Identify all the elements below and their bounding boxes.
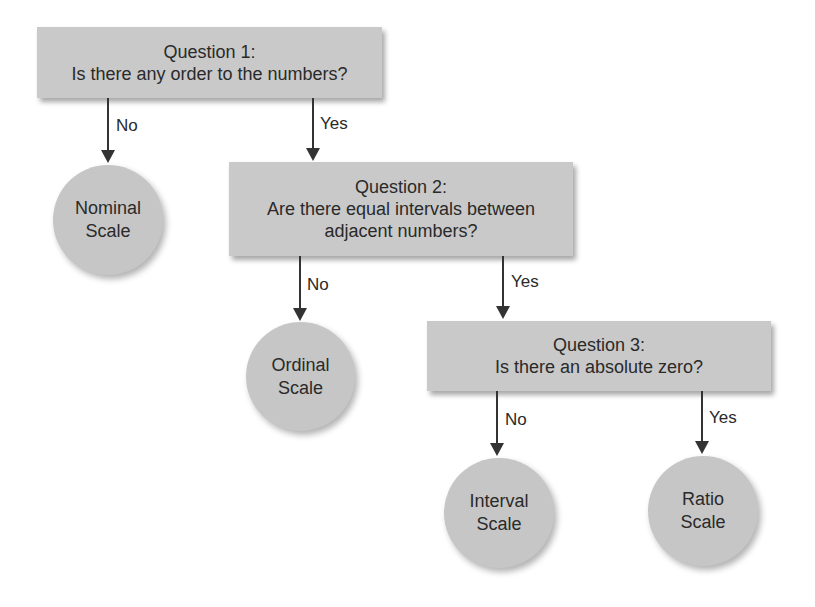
question-3-text: Is there an absolute zero? <box>495 356 703 378</box>
interval-scale-node: Interval Scale <box>444 458 554 568</box>
question-1-text: Is there any order to the numbers? <box>71 63 347 85</box>
nominal-line2: Scale <box>85 220 130 243</box>
edge-label-q1-yes: Yes <box>320 114 348 134</box>
ratio-line1: Ratio <box>682 488 724 511</box>
arrow-q1-yes-shaft <box>312 98 314 148</box>
arrow-q2-yes-head-icon <box>496 306 510 319</box>
arrow-q2-yes-shaft <box>502 256 504 306</box>
ordinal-scale-node: Ordinal Scale <box>246 322 355 431</box>
arrow-q1-no-head-icon <box>101 150 115 163</box>
question-3-box: Question 3: Is there an absolute zero? <box>427 321 771 391</box>
arrow-q1-yes-head-icon <box>306 148 320 161</box>
arrow-q3-yes-shaft <box>701 391 703 441</box>
question-1-title: Question 1: <box>163 41 255 63</box>
question-2-box: Question 2: Are there equal intervals be… <box>229 162 573 256</box>
edge-label-q2-no: No <box>307 275 329 295</box>
arrow-q3-yes-head-icon <box>695 441 709 454</box>
edge-label-q1-no: No <box>116 116 138 136</box>
ratio-scale-node: Ratio Scale <box>648 456 758 566</box>
interval-line2: Scale <box>476 513 521 536</box>
question-3-title: Question 3: <box>553 334 645 356</box>
question-2-text-line2: adjacent numbers? <box>324 220 477 242</box>
question-2-title: Question 2: <box>355 176 447 198</box>
ratio-line2: Scale <box>680 511 725 534</box>
ordinal-line2: Scale <box>278 377 323 400</box>
nominal-line1: Nominal <box>75 197 141 220</box>
ordinal-line1: Ordinal <box>271 354 329 377</box>
question-2-text-line1: Are there equal intervals between <box>267 198 535 220</box>
nominal-scale-node: Nominal Scale <box>53 165 163 275</box>
arrow-q3-no-head-icon <box>490 443 504 456</box>
arrow-q2-no-shaft <box>299 256 301 308</box>
edge-label-q2-yes: Yes <box>511 272 539 292</box>
edge-label-q3-no: No <box>505 410 527 430</box>
question-1-box: Question 1: Is there any order to the nu… <box>37 27 382 98</box>
edge-label-q3-yes: Yes <box>709 408 737 428</box>
arrow-q2-no-head-icon <box>293 308 307 321</box>
arrow-q3-no-shaft <box>496 391 498 443</box>
interval-line1: Interval <box>469 490 528 513</box>
arrow-q1-no-shaft <box>107 98 109 150</box>
